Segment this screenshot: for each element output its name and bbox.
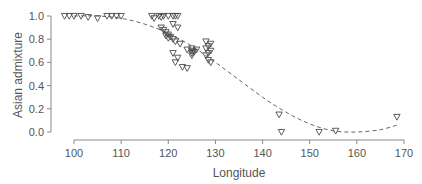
- data-point: [94, 16, 100, 22]
- data-point: [177, 41, 183, 47]
- x-tick-label: 150: [301, 147, 319, 159]
- x-tick-label: 170: [395, 147, 413, 159]
- fit-curve-layer: [74, 16, 397, 132]
- x-axis: 100110120130140150160170: [65, 140, 413, 159]
- y-tick-label: 0.4: [29, 80, 44, 92]
- y-tick-label: 0.0: [29, 126, 44, 138]
- fit-curve: [74, 16, 397, 132]
- x-tick-label: 120: [159, 147, 177, 159]
- data-point: [149, 13, 155, 19]
- y-axis: 0.00.20.40.60.81.0: [29, 10, 51, 138]
- x-tick-label: 160: [348, 147, 366, 159]
- y-tick-label: 0.2: [29, 103, 44, 115]
- x-tick-label: 100: [65, 147, 83, 159]
- x-axis-title: Longitude: [213, 166, 266, 180]
- data-point: [276, 112, 282, 118]
- data-point: [205, 58, 211, 64]
- y-tick-label: 1.0: [29, 10, 44, 22]
- data-point: [175, 25, 181, 31]
- y-tick-label: 0.6: [29, 56, 44, 68]
- data-point: [316, 129, 322, 135]
- data-point: [278, 129, 284, 135]
- x-tick-label: 110: [112, 147, 130, 159]
- scatter-chart: 0.00.20.40.60.81.0 100110120130140150160…: [0, 0, 422, 184]
- y-tick-label: 0.8: [29, 33, 44, 45]
- points-layer: [61, 13, 400, 135]
- data-point: [394, 114, 400, 120]
- data-point: [184, 66, 190, 72]
- x-tick-label: 130: [206, 147, 224, 159]
- x-tick-label: 140: [253, 147, 271, 159]
- data-point: [172, 60, 178, 66]
- y-axis-title: Asian admixture: [11, 32, 25, 118]
